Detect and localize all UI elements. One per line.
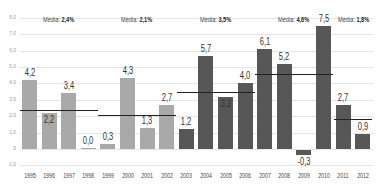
bar-chart: 8,07,06,05,04,03,02,01,00-1,04,219952,21… (0, 0, 378, 185)
mean-value: 2,1% (140, 16, 153, 23)
bar-1995 (22, 80, 37, 149)
bar-2009 (296, 150, 311, 155)
value-label: 7,5 (312, 13, 335, 24)
mean-label: Média: (200, 16, 218, 23)
value-label: 2,7 (155, 92, 178, 103)
mean-label: Média: (278, 16, 296, 23)
mean-label: Média: (43, 16, 61, 23)
bar-2011 (336, 105, 351, 149)
y-tick-label: 8,0 (3, 14, 16, 20)
value-label: 1,2 (175, 116, 198, 127)
x-tick-label: 2001 (138, 172, 156, 179)
mean-annotation: Média: 2,4% (43, 16, 74, 23)
value-label: 2,2 (38, 114, 61, 125)
bar-2002 (159, 105, 174, 149)
gridline (20, 149, 374, 150)
y-tick-label: 7,0 (3, 30, 16, 36)
value-label: 3,4 (57, 80, 80, 91)
value-label: 5,7 (195, 43, 218, 54)
mean-value: 1,8% (356, 16, 369, 23)
mean-value: 4,6% (296, 16, 309, 23)
gridline (20, 165, 374, 166)
x-tick-label: 2007 (256, 172, 274, 179)
x-tick-label: 2012 (354, 172, 372, 179)
x-tick-label: 2003 (177, 172, 195, 179)
value-label: 4,0 (234, 70, 257, 81)
bar-2008 (277, 64, 292, 149)
x-tick-label: 1999 (99, 172, 117, 179)
bar-2007 (257, 49, 272, 149)
value-label: 4,3 (116, 65, 139, 76)
bar-1997 (61, 93, 76, 149)
bar-1999 (100, 144, 115, 149)
x-tick-label: 2000 (119, 172, 137, 179)
x-tick-label: 2002 (158, 172, 176, 179)
y-tick-label: 4,0 (3, 79, 16, 85)
y-tick-label: 1,0 (3, 129, 16, 135)
y-tick-label: 2,0 (3, 112, 16, 118)
x-tick-label: 2005 (217, 172, 235, 179)
value-label: 2,7 (332, 92, 355, 103)
x-tick-label: 2009 (295, 172, 313, 179)
bar-2006 (238, 83, 253, 149)
y-tick-label: 6,0 (3, 47, 16, 53)
bar-2012 (355, 134, 370, 149)
x-tick-label: 2008 (275, 172, 293, 179)
x-tick-label: 1995 (21, 172, 39, 179)
x-tick-label: 2006 (236, 172, 254, 179)
x-tick-label: 2010 (315, 172, 333, 179)
mean-line (20, 110, 98, 111)
value-label: 3,2 (214, 98, 237, 109)
bar-2004 (198, 56, 213, 149)
bar-2001 (140, 128, 155, 149)
mean-line (177, 92, 255, 93)
mean-label: Média: (338, 16, 356, 23)
value-label: 1,3 (136, 115, 159, 126)
y-tick-label: 0 (3, 145, 16, 151)
bar-2010 (316, 26, 331, 149)
mean-value: 2,4% (61, 16, 74, 23)
mean-value: 3,5% (218, 16, 231, 23)
mean-annotation: Média: 2,1% (121, 16, 152, 23)
bar-1998 (81, 148, 96, 150)
y-tick-label: 3,0 (3, 96, 16, 102)
value-label: 6,1 (253, 36, 276, 47)
bar-2003 (179, 129, 194, 149)
x-tick-label: 1998 (79, 172, 97, 179)
x-tick-label: 2004 (197, 172, 215, 179)
y-tick-label: -1,0 (3, 161, 16, 167)
mean-annotation: Média: 1,8% (338, 16, 369, 23)
mean-line (334, 119, 373, 120)
value-label: 4,2 (18, 67, 41, 78)
mean-annotation: Média: 4,6% (278, 16, 309, 23)
value-label: -0,3 (293, 156, 316, 167)
y-tick-label: 5,0 (3, 63, 16, 69)
bar-2000 (120, 78, 135, 149)
mean-label: Média: (121, 16, 139, 23)
mean-line (98, 115, 176, 116)
value-label: 0,3 (97, 131, 120, 142)
x-tick-label: 1996 (40, 172, 58, 179)
x-tick-label: 1997 (60, 172, 78, 179)
mean-annotation: Média: 3,5% (200, 16, 231, 23)
mean-line (255, 74, 333, 75)
x-tick-label: 2011 (334, 172, 352, 179)
value-label: 0,9 (351, 121, 374, 132)
value-label: 5,2 (273, 51, 296, 62)
